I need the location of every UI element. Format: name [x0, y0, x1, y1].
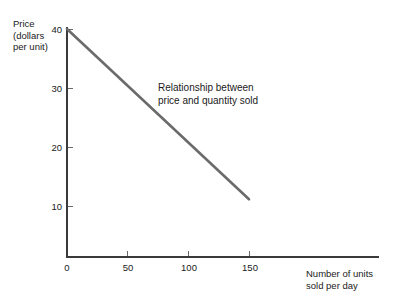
- y-tick-label-30: 30: [38, 83, 62, 94]
- y-tick-label-20: 20: [38, 142, 62, 153]
- y-tick-mark-40: [68, 29, 73, 30]
- x-axis-line: [66, 256, 379, 258]
- x-tick-label-100: 100: [174, 262, 204, 273]
- x-tick-mark-100: [188, 251, 189, 256]
- x-tick-mark-50: [127, 251, 128, 256]
- x-tick-label-50: 50: [113, 262, 143, 273]
- y-tick-mark-30: [68, 88, 73, 89]
- y-tick-mark-10: [68, 206, 73, 207]
- x-tick-mark-150: [249, 251, 250, 256]
- y-tick-label-10: 10: [38, 201, 62, 212]
- y-tick-label-40: 40: [38, 24, 62, 35]
- demand-curve-chart: Price (dollars per unit) Number of units…: [0, 0, 401, 307]
- y-axis-line: [66, 27, 68, 258]
- x-axis-title: Number of units sold per day: [306, 268, 373, 291]
- x-tick-label-0: 0: [52, 262, 82, 273]
- x-tick-label-150: 150: [235, 262, 265, 273]
- y-tick-mark-20: [68, 147, 73, 148]
- curve-annotation-label: Relationship between price and quantity …: [158, 82, 258, 107]
- demand-curve-line: [0, 0, 401, 307]
